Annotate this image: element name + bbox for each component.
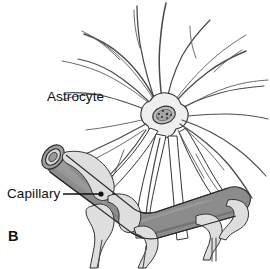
label-astrocyte: Astrocyte: [47, 90, 104, 104]
panel-label-b: B: [8, 229, 18, 244]
figure-panel-b: .proc { fill:none; stroke:#4a4a4a; strok…: [0, 0, 270, 269]
label-capillary: Capillary: [7, 187, 60, 201]
astrocyte-capillary-illustration: .proc { fill:none; stroke:#4a4a4a; strok…: [0, 0, 270, 269]
